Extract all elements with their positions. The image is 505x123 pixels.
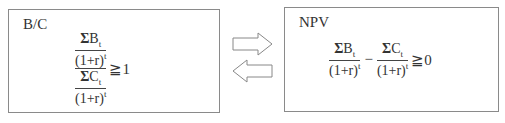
bc-relation: ≧1 bbox=[109, 60, 130, 78]
fraction-bar bbox=[329, 60, 360, 61]
npv-cost-fraction: ΣCt (1+r)t bbox=[377, 42, 408, 77]
bc-ratio-box: B/C ΣBt (1+r)t ΣCt (1+r)t ≧1 bbox=[8, 9, 220, 113]
npv-box: NPV ΣBt (1+r)t − ΣCt (1+r)t ≧0 bbox=[284, 7, 499, 112]
fraction-bar bbox=[75, 50, 106, 51]
fraction-bar bbox=[377, 60, 408, 61]
npv-benefit-fraction: ΣBt (1+r)t bbox=[329, 42, 360, 77]
bc-outer-fraction: ΣBt (1+r)t ΣCt (1+r)t bbox=[75, 32, 106, 106]
arrow-left-icon bbox=[231, 59, 273, 83]
npv-formula: ΣBt (1+r)t − ΣCt (1+r)t ≧0 bbox=[329, 42, 432, 77]
fraction-bar bbox=[75, 88, 106, 89]
arrow-right-icon bbox=[232, 32, 274, 56]
npv-title: NPV bbox=[299, 14, 329, 31]
minus-operator: − bbox=[364, 51, 372, 68]
bc-cost-fraction: ΣCt (1+r)t bbox=[75, 70, 106, 105]
npv-relation: ≧0 bbox=[411, 51, 432, 69]
bc-title: B/C bbox=[23, 16, 47, 33]
bc-benefit-fraction: ΣBt (1+r)t bbox=[75, 32, 106, 67]
bc-formula: ΣBt (1+r)t ΣCt (1+r)t ≧1 bbox=[75, 32, 130, 106]
